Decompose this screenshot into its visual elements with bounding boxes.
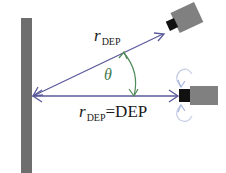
wall [21,18,32,173]
upper-beam-label: rDEP [94,27,121,44]
angle-arc [119,52,138,96]
lower-beam [33,87,178,102]
diagram-canvas [0,0,226,173]
upper-sensor [163,2,203,36]
angle-label: θ [104,66,112,84]
lower-beam-subscript: DEP [87,112,106,123]
lower-sensor [179,86,218,105]
upper-beam-symbol: r [94,26,101,45]
lower-beam-label: rDEP=DEP [79,103,147,120]
lower-beam-symbol: r [79,102,86,121]
lower-beam-value: =DEP [106,102,148,121]
upper-beam-subscript: DEP [102,36,121,47]
